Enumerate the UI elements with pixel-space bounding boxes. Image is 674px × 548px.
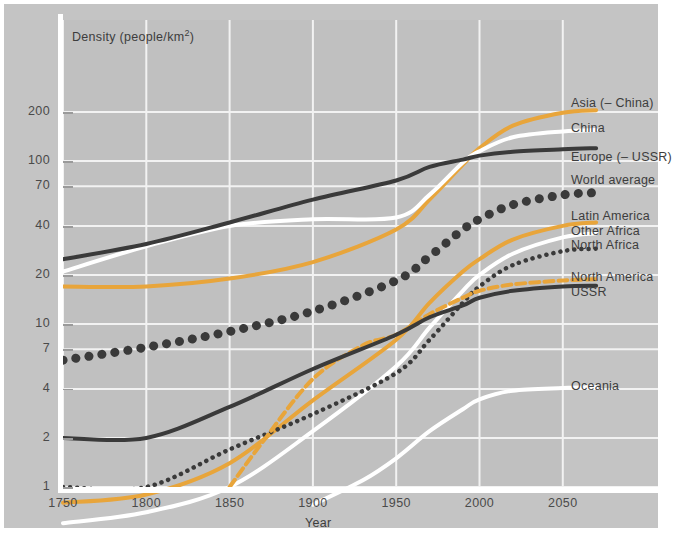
series-label: Europe (– USSR) (571, 150, 672, 164)
x-tick-label: 1950 (366, 496, 426, 510)
y-axis-title-text: Density (people/km (72, 30, 184, 44)
x-tick-label: 2000 (450, 496, 510, 510)
x-axis-line (58, 487, 658, 493)
x-tick-label: 1850 (200, 496, 260, 510)
series-label: North America (571, 270, 653, 284)
x-tick-label: 1900 (283, 496, 343, 510)
x-tick-label: 1750 (33, 496, 93, 510)
series-label: China (571, 121, 605, 135)
x-tick-label: 1800 (116, 496, 176, 510)
y-tick-label: 10 (6, 316, 50, 330)
y-axis-title: Density (people/km2) (72, 28, 194, 44)
series-label: World average (571, 173, 655, 187)
y-tick-label: 70 (6, 178, 50, 192)
y-tick-mark (63, 112, 73, 114)
y-tick-mark (63, 275, 73, 277)
series-label: North Africa (571, 238, 639, 252)
y-axis-line (58, 14, 63, 493)
x-axis-title: Year (305, 516, 331, 530)
y-tick-mark (63, 161, 73, 163)
y-tick-mark (63, 226, 73, 228)
y-tick-mark (63, 324, 73, 326)
y-tick-label: 4 (6, 381, 50, 395)
y-axis-title-tail: ) (190, 30, 194, 44)
y-tick-label: 7 (6, 341, 50, 355)
y-tick-mark (63, 438, 73, 440)
x-tick-label: 2050 (533, 496, 593, 510)
series-line (63, 233, 596, 523)
series-label: USSR (571, 285, 607, 299)
series-label: Asia (– China) (571, 96, 654, 110)
y-tick-mark (63, 389, 73, 391)
y-tick-label: 100 (6, 153, 50, 167)
plot-area (63, 20, 563, 487)
y-tick-label: 40 (6, 218, 50, 232)
y-tick-mark (63, 487, 73, 489)
series-label: Latin America (571, 209, 650, 223)
chart-figure: 124710204070100200 175018001850190019502… (0, 0, 674, 548)
series-layer (63, 20, 663, 490)
y-tick-label: 1 (6, 479, 50, 493)
series-label: Oceania (571, 379, 619, 393)
y-tick-label: 20 (6, 267, 50, 281)
y-tick-mark (63, 349, 73, 351)
series-label: Other Africa (571, 224, 640, 238)
y-tick-label: 2 (6, 430, 50, 444)
y-tick-mark (63, 186, 73, 188)
y-tick-label: 200 (6, 104, 50, 118)
